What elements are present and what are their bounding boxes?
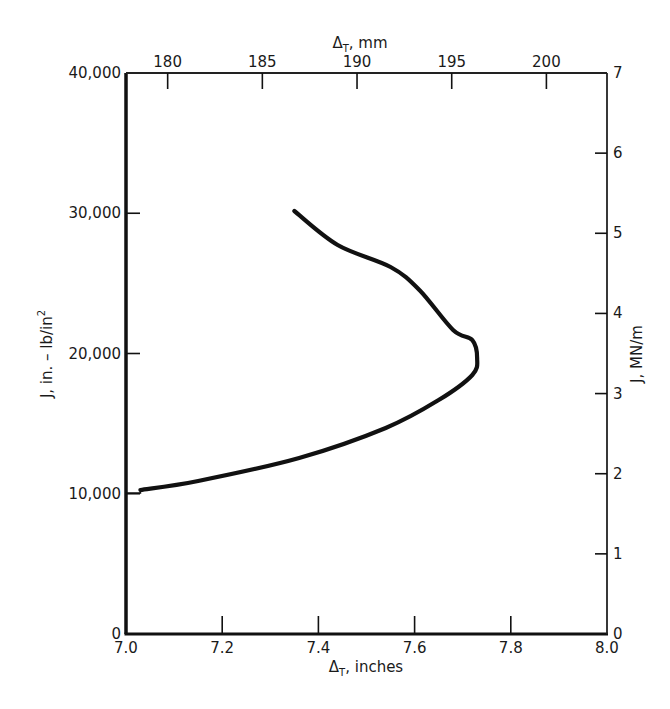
plot-frame xyxy=(125,73,609,634)
x2-tick-label: 185 xyxy=(248,53,277,71)
x2-tick-label: 200 xyxy=(532,53,561,71)
chart: 7.07.27.47.67.88.0 180185190195200 010,0… xyxy=(0,0,670,709)
x-axis-mm: 180185190195200 xyxy=(153,53,560,89)
y-axis-inlb: 010,00020,00030,00040,000 xyxy=(69,64,141,643)
x-tick-label: 7.6 xyxy=(403,639,427,657)
y2-tick-label: 4 xyxy=(613,304,623,322)
x-axis-inches: 7.07.27.47.67.88.0 xyxy=(114,616,619,657)
y2-tick-label: 7 xyxy=(613,64,623,82)
y2-tick-label: 2 xyxy=(613,465,623,483)
data-series xyxy=(126,211,477,493)
x-tick-label: 7.8 xyxy=(499,639,523,657)
x-axis-title: ΔT, inches xyxy=(329,658,404,678)
y2-tick-label: 1 xyxy=(613,545,623,563)
y2-tick-label: 3 xyxy=(613,385,623,403)
y-tick-label: 20,000 xyxy=(69,345,122,363)
y-tick-label: 0 xyxy=(111,625,121,643)
y2-axis-title: J, MN/m xyxy=(628,325,646,384)
x-tick-label: 7.4 xyxy=(306,639,330,657)
curve-start-segment xyxy=(126,490,140,493)
x2-tick-label: 195 xyxy=(437,53,466,71)
y-tick-label: 10,000 xyxy=(69,485,122,503)
y2-tick-label: 5 xyxy=(613,224,623,242)
x2-tick-label: 190 xyxy=(343,53,372,71)
x-tick-label: 7.2 xyxy=(210,639,234,657)
y2-tick-label: 0 xyxy=(613,625,623,643)
x2-axis-title: ΔT, mm xyxy=(332,34,387,54)
y-axis-mnm: 01234567 xyxy=(595,64,623,643)
x2-tick-label: 180 xyxy=(153,53,182,71)
j-vs-delta-curve xyxy=(140,211,477,490)
y2-tick-label: 6 xyxy=(613,144,623,162)
y-axis-title: J, in. – lb/in2 xyxy=(36,310,56,399)
y-tick-label: 40,000 xyxy=(69,64,122,82)
y-tick-label: 30,000 xyxy=(69,204,122,222)
